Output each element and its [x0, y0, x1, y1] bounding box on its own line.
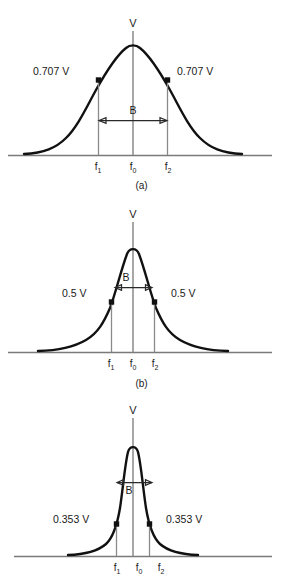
amplitude-label-right: 0.353 V — [166, 513, 202, 525]
bandwidth-arrow — [117, 480, 152, 486]
marker-f1 — [109, 299, 114, 304]
panel-c: V 0.353 V 0.353 V B f1 f0 f2 — [0, 392, 283, 582]
marker-f2 — [152, 299, 157, 304]
f1-label: f1 — [114, 562, 121, 575]
amplitude-label-left: 0.707 V — [33, 65, 69, 77]
panel-b-chart: V 0.5 V 0.5 V B f1 f0 f2 — [0, 192, 283, 392]
panel-b: V 0.5 V 0.5 V B f1 f0 f2 — [0, 192, 283, 392]
f1-label: f1 — [108, 358, 115, 371]
peak-amplitude-label: V — [129, 17, 137, 29]
peak-amplitude-label: V — [129, 208, 137, 220]
f0-label: f0 — [136, 562, 143, 575]
panel-b-caption: (b) — [0, 378, 283, 389]
amplitude-label-right: 0.707 V — [177, 65, 213, 77]
amplitude-label-left: 0.353 V — [53, 513, 89, 525]
panel-a-chart: V 0.707 V 0.707 V B f1 f0 f2 — [0, 0, 283, 200]
marker-f1 — [96, 77, 101, 82]
marker-f2 — [165, 77, 170, 82]
amplitude-label-left: 0.5 V — [62, 287, 87, 299]
marker-f2 — [147, 521, 152, 526]
amplitude-label-right: 0.5 V — [171, 287, 196, 299]
bandwidth-label: B — [129, 104, 136, 116]
f1-label: f1 — [95, 161, 102, 174]
panel-a-caption: (a) — [0, 180, 283, 191]
f2-label: f2 — [152, 358, 159, 371]
marker-f1 — [114, 521, 119, 526]
f0-label: f0 — [130, 358, 137, 371]
f2-label: f2 — [158, 562, 165, 575]
f2-label: f2 — [165, 161, 172, 174]
f0-label: f0 — [130, 161, 137, 174]
panel-c-chart: V 0.353 V 0.353 V B f1 f0 f2 — [0, 392, 283, 582]
bandwidth-label: B — [125, 484, 132, 496]
peak-amplitude-label: V — [129, 404, 137, 416]
panel-a: V 0.707 V 0.707 V B f1 f0 f2 — [0, 0, 283, 200]
bandwidth-label: B — [122, 271, 129, 283]
figure-root: V 0.707 V 0.707 V B f1 f0 f2 (a) — [0, 0, 283, 582]
